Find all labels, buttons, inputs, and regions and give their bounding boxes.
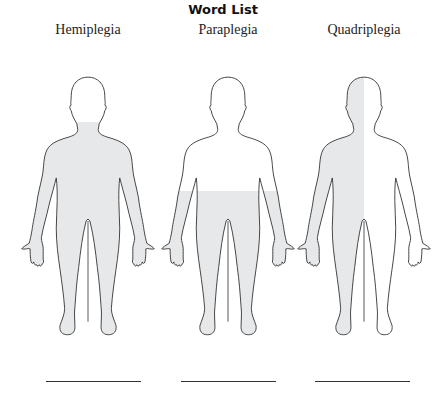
body-figure-quadriplegia bbox=[294, 60, 434, 350]
body-figure-hemiplegia bbox=[18, 60, 158, 350]
page-title: Word List bbox=[0, 2, 446, 17]
answer-line-paraplegia[interactable] bbox=[181, 381, 276, 382]
body-figure-paraplegia bbox=[158, 60, 298, 350]
label-paraplegia: Paraplegia bbox=[158, 22, 298, 38]
answer-line-quadriplegia[interactable] bbox=[315, 381, 410, 382]
shaded-region bbox=[294, 70, 364, 350]
label-hemiplegia: Hemiplegia bbox=[18, 22, 158, 38]
answer-line-hemiplegia[interactable] bbox=[46, 381, 141, 382]
label-quadriplegia: Quadriplegia bbox=[294, 22, 434, 38]
